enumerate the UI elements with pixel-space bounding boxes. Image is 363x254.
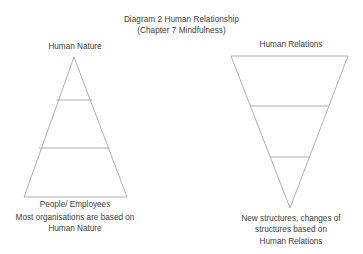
right-pyramid-caption: New structures, changes of structures ba… (216, 213, 363, 247)
right-pyramid-outline (231, 56, 348, 208)
title-line-2: (Chapter 7 Mindfulness) (0, 25, 363, 36)
right-inverted-pyramid-shape (231, 56, 348, 208)
left-pyramid-base-label-group: People/ Employees (0, 199, 150, 210)
left-pyramid-outline (24, 57, 127, 197)
diagram-title: Diagram 2 Human Relationship (Chapter 7 … (0, 14, 363, 36)
right-caption-line-1: New structures, changes of (216, 213, 363, 224)
right-caption-line-2: structures based on (216, 224, 363, 235)
left-caption-line-1: Most organisations are based on (0, 212, 150, 223)
diagram-canvas: Diagram 2 Human Relationship (Chapter 7 … (0, 0, 363, 254)
right-pyramid-top-label: Human Relations (216, 40, 363, 49)
left-pyramid-caption: Most organisations are based on Human Na… (0, 212, 150, 235)
right-caption-line-3: Human Relations (216, 236, 363, 247)
left-pyramid-top-label: Human Nature (0, 42, 150, 51)
title-line-1: Diagram 2 Human Relationship (0, 14, 363, 25)
left-caption-line-2: Human Nature (0, 223, 150, 234)
left-pyramid-base-label: People/ Employees (0, 199, 150, 210)
left-pyramid-shape (24, 57, 127, 197)
